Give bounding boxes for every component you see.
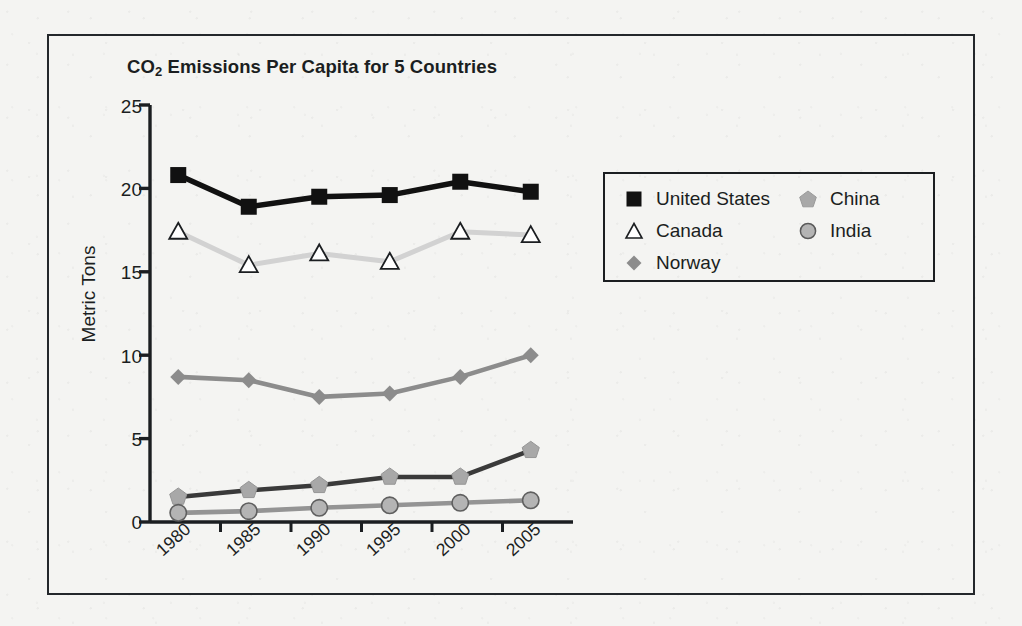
legend-label-canada: Canada [656, 220, 723, 242]
marker-square [311, 189, 327, 205]
marker-circle [382, 497, 398, 513]
marker-square [382, 187, 398, 203]
marker-circle [241, 503, 257, 519]
marker-triangle-open [169, 223, 187, 239]
marker-pentagon [240, 481, 257, 497]
legend-entry-india[interactable]: India [797, 220, 871, 242]
marker-square [523, 184, 539, 200]
legend-label-india: India [830, 220, 871, 242]
series-line [178, 175, 531, 207]
series-norway [170, 347, 539, 405]
marker-diamond [311, 389, 327, 405]
pentagon-marker-icon [797, 188, 819, 210]
plot-area [0, 0, 1022, 626]
series-canada [169, 223, 540, 272]
legend-label-united-states: United States [656, 188, 770, 210]
triangle-outline-marker-icon [623, 220, 645, 242]
legend-box: United States Canada Norway China India [603, 172, 935, 282]
marker-square [170, 167, 186, 183]
marker-circle [170, 505, 186, 521]
marker-diamond [170, 369, 186, 385]
diamond-marker-icon [623, 252, 645, 274]
marker-circle [311, 500, 327, 516]
marker-pentagon [170, 488, 187, 504]
marker-pentagon [522, 441, 539, 457]
marker-square [452, 174, 468, 190]
marker-pentagon [452, 468, 469, 484]
marker-pentagon [311, 476, 328, 492]
axes-group [139, 105, 573, 532]
marker-circle [523, 492, 539, 508]
circle-marker-icon [797, 220, 819, 242]
figure-page: CO2 Emissions Per Capita for 5 Countries… [0, 0, 1022, 626]
series-line [178, 232, 531, 265]
marker-square [241, 199, 257, 215]
legend-entry-china[interactable]: China [797, 188, 880, 210]
series-line [178, 500, 531, 513]
series-line [178, 355, 531, 397]
legend-entry-canada[interactable]: Canada [623, 220, 723, 242]
square-marker-icon [623, 188, 645, 210]
series-united-states [170, 167, 539, 215]
legend-label-china: China [830, 188, 880, 210]
marker-pentagon [381, 468, 398, 484]
series-china [170, 441, 540, 504]
series-line [178, 450, 531, 497]
legend-label-norway: Norway [656, 252, 720, 274]
legend-entry-united-states[interactable]: United States [623, 188, 770, 210]
marker-circle [452, 495, 468, 511]
legend-entry-norway[interactable]: Norway [623, 252, 720, 274]
marker-diamond [241, 372, 257, 388]
marker-diamond [382, 386, 398, 402]
series-india [170, 492, 539, 521]
data-series-group [169, 167, 540, 521]
marker-diamond [523, 347, 539, 363]
marker-diamond [452, 369, 468, 385]
